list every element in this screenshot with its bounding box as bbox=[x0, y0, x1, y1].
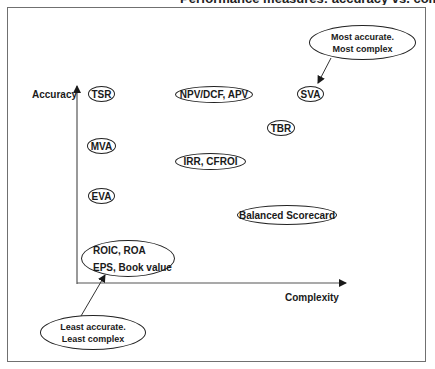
node-tbr: TBR bbox=[267, 120, 295, 136]
callout-bottom-arrow bbox=[81, 275, 105, 316]
callout-top-line1: Most accurate. bbox=[331, 31, 394, 43]
node-eva: EVA bbox=[88, 188, 115, 204]
callout-least-accurate: Least accurate. Least complex bbox=[40, 315, 146, 350]
callout-top-arrow bbox=[318, 58, 331, 83]
node-irr-cfroi: IRR, CFROI bbox=[175, 153, 246, 170]
callout-bottom-line1: Least accurate. bbox=[60, 321, 126, 333]
callout-top-line2: Most complex bbox=[332, 43, 392, 55]
node-mva: MVA bbox=[87, 138, 116, 154]
callout-most-accurate: Most accurate. Most complex bbox=[309, 25, 416, 60]
node-tsr: TSR bbox=[88, 86, 115, 102]
node-roic-line2: EPS, Book value bbox=[93, 262, 172, 273]
node-sva: SVA bbox=[297, 86, 324, 102]
node-balanced-scorecard: Balanced Scorecard bbox=[237, 205, 337, 225]
x-axis-label: Complexity bbox=[285, 292, 339, 304]
y-axis-label: Accuracy bbox=[32, 89, 77, 101]
node-npv-dcf-apv: NPV/DCF, APV bbox=[175, 86, 253, 103]
node-roic-line1: ROIC, ROA bbox=[93, 245, 146, 256]
node-roic-roa-eps-book-value: ROIC, ROA EPS, Book value bbox=[81, 240, 175, 277]
callout-bottom-line2: Least complex bbox=[62, 333, 125, 345]
